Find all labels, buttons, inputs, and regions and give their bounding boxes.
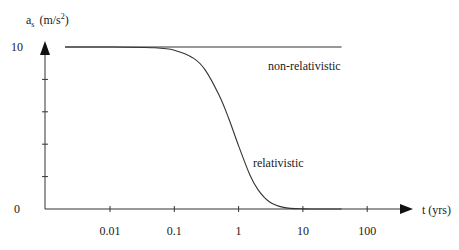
y-axis-title: as(m/s2) bbox=[26, 12, 69, 29]
y-tick-label: 0 bbox=[14, 202, 20, 216]
axes bbox=[40, 41, 413, 214]
y-tick-label: 10 bbox=[11, 40, 23, 54]
chart: 0.010.1110100010 as(m/s2) t (yrs) non-re… bbox=[0, 0, 459, 250]
x-axis-arrow-icon bbox=[400, 204, 413, 214]
y-axis-title-unit-close: ) bbox=[65, 13, 69, 27]
x-tick-label: 0.01 bbox=[100, 224, 121, 238]
annotation-non-relativistic: non-relativistic bbox=[268, 59, 341, 73]
x-tick-label: 0.1 bbox=[167, 224, 182, 238]
x-axis-title: t (yrs) bbox=[422, 203, 451, 217]
x-tick-label: 100 bbox=[358, 224, 376, 238]
x-tick-label: 1 bbox=[236, 224, 242, 238]
annotation-relativistic: relativistic bbox=[253, 156, 304, 170]
y-axis-title-unit: (m/s bbox=[39, 13, 61, 27]
y-axis-arrow-icon bbox=[40, 41, 50, 55]
x-tick-label: 10 bbox=[297, 224, 309, 238]
y-axis-title-subscript: s bbox=[31, 20, 34, 29]
